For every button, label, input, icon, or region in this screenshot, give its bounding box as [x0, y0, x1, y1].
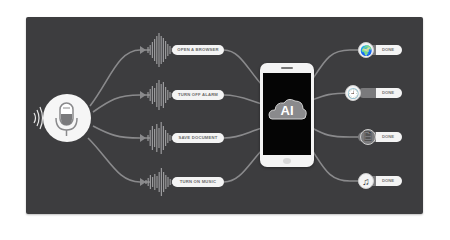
music-note-icon: ♫: [358, 173, 374, 189]
done-label: DONE: [382, 132, 394, 142]
home-button: [283, 158, 291, 164]
done-label: DONE: [382, 88, 394, 98]
ai-label: AI: [263, 103, 311, 118]
document-icon: 🗎: [360, 129, 376, 145]
done-label: DONE: [382, 45, 394, 55]
command-save-document: SAVE DOCUMENT: [172, 133, 224, 143]
microphone-icon: [43, 94, 91, 142]
sound-waves-icon: [34, 107, 43, 129]
done-label: DONE: [382, 176, 394, 186]
command-turn-on-music: TURN ON MUSIC: [172, 177, 224, 187]
result-done-2: DONE: [358, 88, 402, 98]
phone-screen: AI: [263, 73, 311, 155]
globe-icon: 🌍: [358, 42, 374, 58]
command-turn-off-alarm: TURN OFF ALARM: [172, 90, 224, 100]
command-open-browser: OPEN A BROWSER: [172, 45, 224, 55]
smartphone: AI: [260, 63, 314, 167]
waveform-icon: [146, 33, 172, 196]
phone-speaker: [281, 67, 293, 69]
clock-icon: 🕘: [345, 85, 361, 101]
microphone-button[interactable]: [43, 94, 91, 142]
